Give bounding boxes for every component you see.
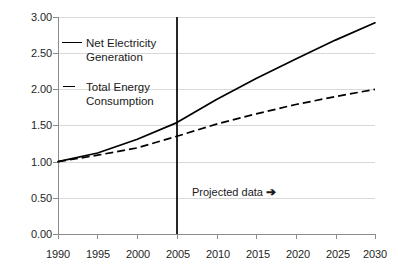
legend-solid-line-icon [62, 42, 82, 43]
legend-item-net-electricity-generation: Net Electricity Generation [62, 36, 180, 64]
projected-data-label: Projected data [192, 186, 263, 198]
legend-item-total-energy-consumption: Total Energy Consumption [62, 80, 180, 108]
legend-label-line2: Generation [86, 51, 143, 63]
legend-label-line2: Consumption [86, 95, 154, 107]
legend-dashed-line-icon [63, 86, 75, 87]
line-chart: 3.00 2.50 2.00 1.50 1.00 0.50 0.00 1990 … [0, 0, 398, 274]
legend-label-line1: Total Energy [86, 81, 150, 93]
x-axis-ticks [58, 234, 375, 239]
legend-label-line1: Net Electricity [86, 37, 156, 49]
projected-data-annotation: Projected data➔ [192, 186, 276, 199]
plot-area [0, 0, 398, 274]
y-axis-ticks [53, 17, 58, 234]
right-arrow-icon: ➔ [266, 185, 276, 199]
chart-legend: Net Electricity Generation Total Energy … [62, 36, 180, 124]
